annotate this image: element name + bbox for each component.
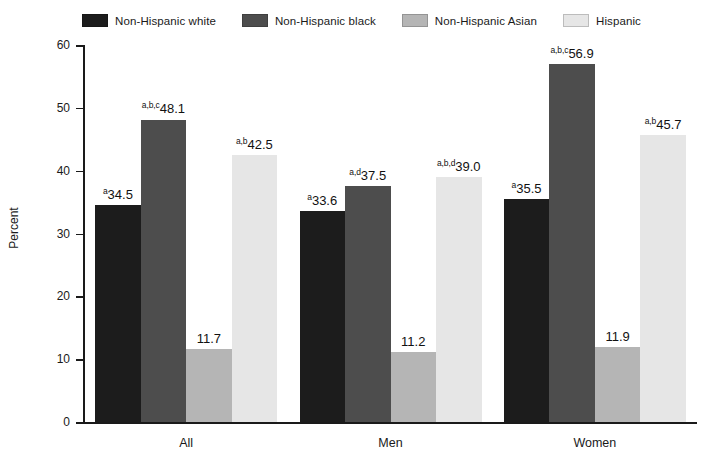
plot-area: 0102030405060a34.5a,b,c48.111.7a,b42.5Al… [84, 45, 697, 422]
legend-item[interactable]: Hispanic [563, 14, 641, 27]
y-axis-title: Percent [7, 207, 21, 248]
x-axis-category-label: All [179, 436, 193, 450]
bar[interactable] [640, 135, 686, 422]
bar-value-superscript: a,b,d [437, 158, 455, 168]
bar-value-superscript: a,b,c [142, 100, 160, 110]
bar[interactable] [595, 347, 641, 422]
bar-value-superscript: a,b [645, 116, 657, 126]
y-axis-tick [76, 108, 84, 110]
bar-value-number: 56.9 [568, 46, 593, 61]
bar-value-superscript: a,d [349, 167, 361, 177]
bar-slot: 11.9 [595, 45, 641, 422]
bar-value-label: a,d37.5 [349, 168, 386, 182]
bar[interactable] [95, 205, 141, 422]
bar-group: a33.6a,d37.511.2a,b,d39.0Men [300, 45, 482, 422]
y-axis-tick-label: 0 [40, 415, 70, 429]
bar[interactable] [186, 349, 232, 423]
legend-item[interactable]: Non-Hispanic black [242, 14, 376, 27]
y-axis-tick [76, 171, 84, 173]
bar-value-superscript: a,b [236, 136, 248, 146]
bar-value-number: 35.5 [516, 181, 541, 196]
bar-value-number: 45.7 [656, 117, 681, 132]
bar-value-label: a,b,c48.1 [142, 101, 185, 115]
bar-value-superscript: a,b,c [550, 45, 568, 55]
bar-value-label: 11.9 [605, 330, 629, 343]
bar-value-number: 37.5 [361, 168, 386, 183]
legend-swatch-icon [82, 14, 108, 27]
bar-slot: a,b,c56.9 [549, 45, 595, 422]
bar-slot: a,b45.7 [640, 45, 686, 422]
bar-slot: 11.7 [186, 45, 232, 422]
bar-value-label: a,b42.5 [236, 137, 273, 151]
legend-swatch-icon [563, 14, 589, 27]
bar-value-number: 34.5 [108, 187, 133, 202]
x-axis-line [83, 422, 697, 424]
bar[interactable] [300, 211, 346, 422]
bar-slot: a33.6 [300, 45, 346, 422]
bar-value-label: a33.6 [307, 193, 337, 207]
bar[interactable] [549, 64, 595, 422]
bar-value-number: 48.1 [160, 102, 185, 117]
bar-slot: a34.5 [95, 45, 141, 422]
bar-value-number: 39.0 [455, 159, 480, 174]
bar-group: a35.5a,b,c56.911.9a,b45.7Women [504, 45, 686, 422]
bar[interactable] [345, 186, 391, 422]
legend-label: Hispanic [596, 15, 641, 27]
legend-swatch-icon [402, 14, 428, 27]
x-axis-category-label: Women [573, 436, 616, 450]
y-axis-tick-label: 10 [40, 352, 70, 366]
y-axis-tick [76, 45, 84, 47]
legend-item[interactable]: Non-Hispanic white [82, 14, 216, 27]
legend-label: Non-Hispanic black [275, 15, 376, 27]
bar[interactable] [391, 352, 437, 422]
bar-value-label: 11.7 [197, 332, 221, 345]
bar-group: a34.5a,b,c48.111.7a,b42.5All [95, 45, 277, 422]
bar-slot: a35.5 [504, 45, 550, 422]
y-axis-tick [76, 422, 84, 424]
legend-swatch-icon [242, 14, 268, 27]
bar-slot: a,b,d39.0 [436, 45, 482, 422]
bar-value-label: a35.5 [512, 181, 542, 195]
bar[interactable] [436, 177, 482, 422]
bar-value-label: a,b,c56.9 [550, 46, 593, 60]
bar-slot: a,d37.5 [345, 45, 391, 422]
legend-label: Non-Hispanic Asian [435, 15, 537, 27]
bar-value-number: 33.6 [312, 193, 337, 208]
y-axis-tick-label: 30 [40, 227, 70, 241]
bar-slot: a,b,c48.1 [141, 45, 187, 422]
bar-slot: a,b42.5 [232, 45, 278, 422]
bar[interactable] [141, 120, 187, 422]
y-axis-tick-label: 50 [40, 101, 70, 115]
bar-value-number: 11.9 [605, 329, 629, 344]
bar-value-label: 11.2 [401, 335, 425, 348]
bar-value-number: 11.7 [197, 331, 221, 346]
legend-label: Non-Hispanic white [115, 15, 216, 27]
y-axis-tick [76, 296, 84, 298]
chart-legend: Non-Hispanic whiteNon-Hispanic blackNon-… [0, 14, 723, 27]
y-axis-tick-label: 60 [40, 38, 70, 52]
bar-value-label: a,b45.7 [645, 117, 682, 131]
y-axis-tick [76, 359, 84, 361]
x-axis-category-label: Men [378, 436, 402, 450]
bar-value-number: 11.2 [401, 334, 425, 349]
bar-value-label: a,b,d39.0 [437, 159, 481, 173]
y-axis-tick [76, 234, 84, 236]
y-axis-tick-label: 40 [40, 164, 70, 178]
bar-value-label: a34.5 [103, 187, 133, 201]
bar-value-number: 42.5 [248, 137, 273, 152]
bar[interactable] [504, 199, 550, 422]
y-axis-tick-label: 20 [40, 289, 70, 303]
bar-chart: Non-Hispanic whiteNon-Hispanic blackNon-… [0, 0, 723, 456]
bar-slot: 11.2 [391, 45, 437, 422]
bar[interactable] [232, 155, 278, 422]
legend-item[interactable]: Non-Hispanic Asian [402, 14, 537, 27]
